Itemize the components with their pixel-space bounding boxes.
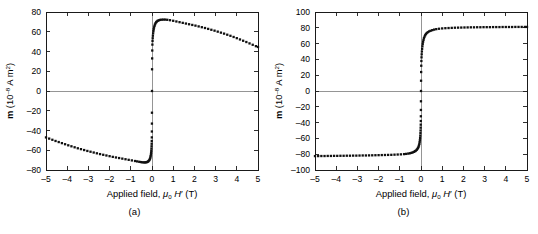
x-tick-label: 0 xyxy=(419,174,424,184)
data-point xyxy=(150,148,152,150)
data-point xyxy=(421,45,423,47)
data-point xyxy=(420,65,422,67)
x-tick-label: –5 xyxy=(310,174,320,184)
data-point xyxy=(362,154,364,156)
x-tick-label: 1 xyxy=(440,174,445,184)
x-tick-label: 2 xyxy=(192,174,197,184)
data-point xyxy=(333,155,335,157)
data-point xyxy=(320,155,322,157)
data-point xyxy=(115,156,117,158)
x-tick-label: 2 xyxy=(461,174,466,184)
y-tick-label: 20 xyxy=(300,70,310,80)
data-point xyxy=(83,149,85,151)
data-point xyxy=(422,43,424,45)
x-tick-label: –1 xyxy=(395,174,405,184)
data-point xyxy=(400,153,402,155)
data-point xyxy=(175,20,177,22)
data-point xyxy=(495,26,497,28)
y-tick-label: –20 xyxy=(296,102,311,112)
data-point xyxy=(185,22,187,24)
data-point xyxy=(61,142,63,144)
data-point xyxy=(352,154,354,156)
x-tick-label: 0 xyxy=(150,174,155,184)
data-point xyxy=(342,155,344,157)
data-point xyxy=(421,53,423,55)
data-point xyxy=(463,26,465,28)
data-point xyxy=(151,90,153,92)
data-point xyxy=(124,158,126,160)
y-tick-label: 60 xyxy=(300,39,310,49)
data-point xyxy=(433,28,435,30)
data-point xyxy=(242,40,244,42)
plot-b: –5–4–3–2–1012345100806040200–20–40–60–80… xyxy=(269,0,538,206)
data-point xyxy=(128,159,130,161)
data-point xyxy=(381,154,383,156)
data-point xyxy=(419,132,421,134)
data-point xyxy=(99,153,101,155)
x-tick-label: –2 xyxy=(374,174,384,184)
data-point xyxy=(526,26,528,28)
data-point xyxy=(151,43,153,45)
data-point xyxy=(51,139,53,141)
data-point xyxy=(397,153,399,155)
data-point xyxy=(473,26,475,28)
x-axis-title: Applied field, μ0 H′ (T) xyxy=(376,188,467,200)
caption-a: (a) xyxy=(0,206,269,217)
data-point xyxy=(457,26,459,28)
data-point xyxy=(387,154,389,156)
data-point xyxy=(524,26,526,28)
data-point xyxy=(486,26,488,28)
data-point xyxy=(210,29,212,31)
data-point xyxy=(150,145,152,147)
data-point xyxy=(213,30,215,32)
x-tick-label: –1 xyxy=(126,174,136,184)
data-point xyxy=(151,57,153,59)
x-tick-label: 3 xyxy=(482,174,487,184)
y-tick-label: –80 xyxy=(27,165,42,175)
data-point xyxy=(152,37,154,39)
x-tick-label: 4 xyxy=(234,174,239,184)
data-point xyxy=(365,154,367,156)
data-point xyxy=(197,25,199,27)
data-point xyxy=(239,38,241,40)
data-point xyxy=(96,152,98,154)
data-point xyxy=(317,155,319,157)
data-point xyxy=(204,27,206,29)
x-tick-label: 5 xyxy=(256,174,261,184)
data-point xyxy=(77,147,79,149)
data-point xyxy=(54,140,56,142)
y-tick-label: 80 xyxy=(300,23,310,33)
data-point xyxy=(419,137,421,139)
data-point xyxy=(314,155,316,157)
data-point xyxy=(102,154,104,156)
data-point xyxy=(151,136,153,138)
y-tick-label: 0 xyxy=(36,86,41,96)
x-tick-label: 3 xyxy=(213,174,218,184)
data-point xyxy=(131,159,133,161)
data-point xyxy=(441,27,443,29)
data-point xyxy=(48,137,50,139)
data-point xyxy=(151,130,153,132)
y-tick-label: –80 xyxy=(296,149,311,159)
data-point xyxy=(384,154,386,156)
y-tick-label: 60 xyxy=(31,27,41,37)
data-point xyxy=(505,26,507,28)
data-point xyxy=(136,160,138,162)
data-point xyxy=(374,154,376,156)
data-point xyxy=(255,45,257,47)
data-point xyxy=(501,26,503,28)
data-point xyxy=(420,80,422,82)
data-point xyxy=(451,27,453,29)
figure-container: –5–4–3–2–1012345806040200–20–40–60–80App… xyxy=(0,0,538,234)
x-tick-label: 5 xyxy=(525,174,530,184)
data-point xyxy=(336,155,338,157)
data-point xyxy=(151,122,153,124)
y-tick-label: –40 xyxy=(296,118,311,128)
data-point xyxy=(346,155,348,157)
x-tick-label: –5 xyxy=(41,174,51,184)
data-point xyxy=(420,124,422,126)
data-point xyxy=(498,26,500,28)
data-point xyxy=(80,148,82,150)
data-point xyxy=(151,143,153,145)
data-point xyxy=(420,109,422,111)
